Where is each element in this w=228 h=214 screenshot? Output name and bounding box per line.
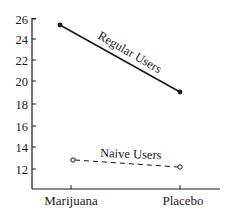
naive-users-label: Naive Users [100,146,162,162]
y-tick-labels: 26 24 22 20 18 16 14 12 [16,13,29,177]
regular-users-point-marijuana [58,23,63,28]
series-naive-users: Naive Users [71,146,182,169]
y-tick-label: 20 [16,75,29,89]
y-tick-label: 16 [16,120,29,134]
series-regular-users: Regular Users [58,23,183,95]
y-tick-label: 26 [16,13,29,27]
x-category-label-marijuana: Marijuana [44,193,98,208]
x-category-label-placebo: Placebo [162,193,203,208]
naive-users-point-placebo [178,165,182,169]
naive-users-point-marijuana [71,158,75,162]
regular-users-point-placebo [178,90,183,95]
y-tick-label: 22 [16,54,29,68]
y-tick-label: 12 [16,163,29,177]
y-tick-label: 14 [16,141,29,155]
naive-users-line [75,160,178,167]
y-tick-label: 18 [16,98,29,112]
regular-users-line [60,25,180,92]
regular-users-label: Regular Users [96,28,165,76]
line-chart: 26 24 22 20 18 16 14 12 Marijuana Placeb… [0,0,228,214]
y-tick-label: 24 [16,33,29,47]
